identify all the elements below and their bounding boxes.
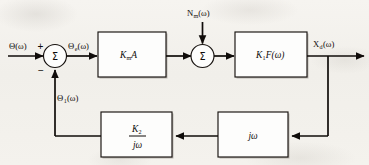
error-signal-label-theta: Θ	[68, 41, 74, 51]
block-km-a-label-suffix: A	[130, 50, 137, 60]
noise-input-label-suffix: (ω)	[198, 8, 210, 18]
block-jw-label: jω	[247, 131, 258, 141]
feedback-signal-label-theta: Θ	[57, 93, 63, 103]
block-k2-denominator: jω	[132, 140, 143, 150]
summing-junction-2-sigma: Σ	[199, 51, 205, 62]
noise-input-label: N m (ω)	[187, 8, 210, 19]
block-k1-f-label: K 1 F(ω)	[255, 50, 284, 61]
error-signal-label-suffix: (ω)	[78, 41, 90, 51]
input-signal-label: Θ(ω)	[9, 41, 27, 51]
output-signal-label-subscript: d	[319, 44, 322, 50]
block-k1-f-label-suffix: F(ω)	[265, 50, 285, 61]
feedback-signal-label-suffix: (ω)	[67, 93, 79, 103]
block-k2-numerator-subscript: 2	[138, 129, 141, 135]
feedback-signal-label: Θ 1 (ω)	[57, 93, 79, 104]
control-system-block-diagram: Σ + − Θ(ω) Θ e (ω) K m A N m (ω)	[0, 0, 369, 165]
summing-junction-1-sigma: Σ	[52, 51, 58, 62]
output-signal-label: X d (ω)	[313, 39, 335, 50]
output-signal-label-suffix: (ω)	[323, 39, 335, 49]
minus-sign-feedback: −	[38, 65, 44, 76]
block-diagram-canvas: Σ + − Θ(ω) Θ e (ω) K m A N m (ω)	[0, 0, 369, 165]
block-k2-over-jw[interactable]	[101, 112, 172, 157]
plus-sign-input: +	[38, 41, 44, 52]
error-signal-label: Θ e (ω)	[68, 41, 89, 52]
